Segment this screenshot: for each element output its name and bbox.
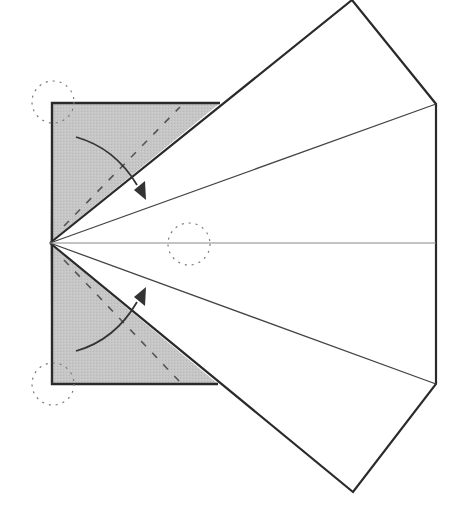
white-flaps — [50, 0, 436, 492]
origami-diagram — [0, 0, 457, 515]
